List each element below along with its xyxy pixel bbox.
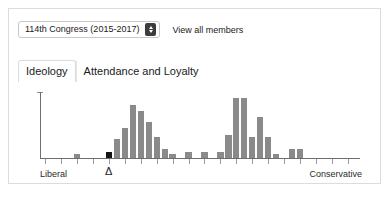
selected-member-marker-icon: Δ (105, 166, 112, 177)
x-axis-tick (332, 159, 333, 164)
x-axis-tick (204, 159, 205, 164)
x-axis-tick (300, 159, 301, 164)
x-axis-tick (125, 159, 126, 164)
histogram-bar[interactable] (273, 154, 279, 158)
x-axis-tick (236, 159, 237, 164)
congress-select[interactable]: 114th Congress (2015-2017) (18, 21, 160, 38)
stepper-up-down-icon[interactable] (145, 23, 156, 36)
histogram-bar[interactable] (130, 105, 136, 158)
tab-attendance-and-loyalty[interactable]: Attendance and Loyalty (76, 60, 207, 82)
histogram-bar[interactable] (138, 111, 144, 158)
x-axis-tick (284, 159, 285, 164)
x-axis-tick (141, 159, 142, 164)
axis-label-conservative: Conservative (309, 170, 362, 179)
chevron-down-icon (149, 30, 153, 33)
view-all-members-link[interactable]: View all members (172, 25, 243, 35)
histogram-bar[interactable] (201, 152, 207, 158)
screenshot-root: 114th Congress (2015-2017) View all memb… (0, 0, 391, 198)
congress-select-value: 114th Congress (2015-2017) (25, 25, 139, 34)
x-axis-tick (348, 159, 349, 164)
histogram-bar[interactable] (265, 137, 271, 158)
x-axis-tick (316, 159, 317, 164)
histogram-bars (41, 94, 360, 158)
tab-ideology[interactable]: Ideology (18, 60, 76, 82)
histogram-bar[interactable] (217, 152, 223, 158)
x-axis-tick (220, 159, 221, 164)
histogram-bar[interactable] (122, 128, 128, 158)
histogram-bar[interactable] (289, 149, 295, 158)
histogram-bar[interactable] (154, 137, 160, 158)
x-axis-tick (252, 159, 253, 164)
axis-label-liberal: Liberal (40, 170, 67, 179)
x-axis-tick (268, 159, 269, 164)
x-axis-tick (157, 159, 158, 164)
histogram-bar[interactable] (225, 135, 231, 158)
card-tabs: Ideology Attendance and Loyalty (18, 60, 207, 82)
card-toolbar: 114th Congress (2015-2017) View all memb… (18, 21, 243, 38)
histogram-bar[interactable] (74, 154, 80, 158)
histogram-bar[interactable] (241, 98, 247, 158)
histogram-bar[interactable] (233, 98, 239, 158)
tab-ideology-label: Ideology (26, 65, 68, 77)
x-axis-tick (173, 159, 174, 164)
histogram-bar[interactable] (257, 117, 263, 158)
ideology-histogram: Liberal Conservative Δ (18, 87, 372, 177)
histogram-bar[interactable] (249, 137, 255, 158)
x-axis-tick (93, 159, 94, 164)
x-axis-tick (77, 159, 78, 164)
histogram-bar[interactable] (185, 152, 191, 158)
histogram-bar[interactable] (146, 122, 152, 158)
histogram-bar[interactable] (106, 152, 112, 158)
x-axis-ticks (41, 159, 360, 164)
histogram-bar[interactable] (162, 149, 168, 158)
x-axis-tick (45, 159, 46, 164)
member-ideology-card: 114th Congress (2015-2017) View all memb… (8, 8, 381, 184)
histogram-bar[interactable] (297, 149, 303, 158)
chevron-up-icon (149, 26, 153, 29)
tab-attendance-and-loyalty-label: Attendance and Loyalty (84, 65, 199, 77)
histogram-bar[interactable] (114, 139, 120, 158)
histogram-bar[interactable] (169, 154, 175, 158)
x-axis-tick (109, 159, 110, 164)
x-axis-tick (189, 159, 190, 164)
x-axis-tick (61, 159, 62, 164)
